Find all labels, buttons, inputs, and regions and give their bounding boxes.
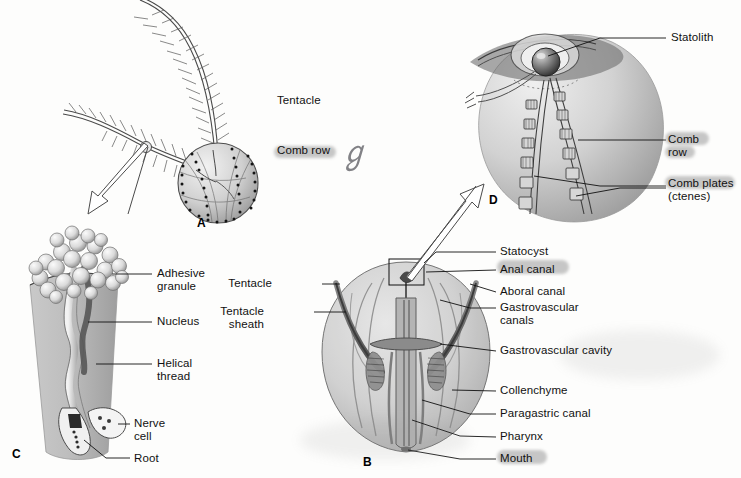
label-comb-row-a: Comb row <box>277 144 330 157</box>
label-helical-thread: Helical thread <box>157 357 192 383</box>
arrow-statocyst-to-panel-d <box>406 184 484 281</box>
label-pharynx: Pharynx <box>500 430 543 443</box>
tentacle-upper <box>134 0 229 155</box>
page-smudge-1 <box>300 420 470 460</box>
panel-letter-a: A <box>197 216 206 230</box>
label-statolith: Statolith <box>671 31 713 44</box>
label-gastrovascular-cavity: Gastrovascular cavity <box>500 344 612 357</box>
label-comb-plates: Comb plates (ctenes) <box>668 177 734 203</box>
statolith-shape <box>532 48 560 76</box>
panel-letter-b: B <box>363 455 372 469</box>
label-comb-row-d: Comb row <box>668 133 699 159</box>
label-tentacle-a: Tentacle <box>277 94 321 107</box>
label-tentacle-sheath: Tentacle sheath <box>220 305 264 331</box>
figure-artwork <box>0 0 741 478</box>
label-statocyst: Statocyst <box>500 245 548 258</box>
label-root: Root <box>134 452 159 465</box>
label-nucleus: Nucleus <box>157 315 199 328</box>
handwritten-mark: ℊ <box>335 126 371 174</box>
label-tentacle-b: Tentacle <box>228 277 272 290</box>
panel-letter-c: C <box>12 447 21 461</box>
label-adhesive-granule: Adhesive granule <box>157 267 205 293</box>
label-collenchyme: Collenchyme <box>500 384 568 397</box>
label-anal-canal: Anal canal <box>500 263 555 276</box>
label-mouth: Mouth <box>500 452 532 465</box>
label-nerve-cell: Nerve cell <box>134 417 165 443</box>
label-aboral-canal: Aboral canal <box>500 285 565 298</box>
ctenophore-body-a <box>178 143 258 224</box>
panel-letter-d: D <box>489 193 498 207</box>
label-paragastric-canal: Paragastric canal <box>500 407 591 420</box>
figure-root: Tentacle Comb row ℊ Tentacle Tentacle sh… <box>0 0 741 478</box>
label-gastrovascular-canals: Gastrovascular canals <box>500 301 579 327</box>
panel-b-artwork <box>314 184 496 459</box>
panel-a-artwork <box>63 0 258 224</box>
